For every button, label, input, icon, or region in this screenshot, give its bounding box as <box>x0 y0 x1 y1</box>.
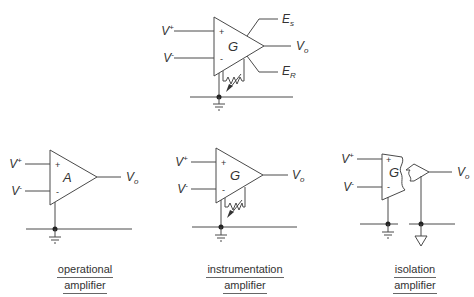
operational-amplifier: V+ V- + - A Vo <box>9 150 139 243</box>
svg-text:+: + <box>55 160 60 170</box>
caption-line-2: amplifier <box>63 278 107 294</box>
svg-text:V+: V+ <box>341 151 354 166</box>
svg-text:Vo: Vo <box>296 39 309 55</box>
gain-label: G <box>230 168 240 183</box>
svg-text:V+: V+ <box>9 156 22 171</box>
isolation-amplifier: V+ V- + - G Vo <box>341 151 470 246</box>
gain-label: A <box>62 170 72 185</box>
svg-text:ER: ER <box>282 64 296 80</box>
svg-text:V+: V+ <box>175 154 188 169</box>
svg-text:V-: V- <box>163 50 174 65</box>
svg-text:+: + <box>221 158 226 168</box>
svg-text:V-: V- <box>177 181 188 196</box>
isolated-ground-icon <box>415 236 427 246</box>
caption-line-1: instrumentation <box>206 262 283 278</box>
caption-instrumentation: instrumentation amplifier <box>195 262 295 294</box>
gain-label: G <box>228 39 238 54</box>
caption-line-1: operational <box>57 262 113 278</box>
svg-text:-: - <box>56 187 59 197</box>
svg-text:Vo: Vo <box>457 165 470 181</box>
svg-text:-: - <box>220 54 223 64</box>
svg-text:Es: Es <box>282 12 294 28</box>
caption-line-2: amplifier <box>223 278 267 294</box>
svg-text:V-: V- <box>343 179 354 194</box>
svg-text:+: + <box>386 155 391 165</box>
svg-text:-: - <box>222 185 225 195</box>
gain-label: G <box>389 165 399 180</box>
instrumentation-amplifier: V+ V- + - G Vo <box>175 148 305 241</box>
svg-text:Vo: Vo <box>292 168 305 184</box>
amplifier-diagram: V+ V- + - G Es Vo ER V+ V- + - A Vo <box>0 0 474 297</box>
amplifier-triangle <box>214 17 264 76</box>
isolation-output-stage <box>406 164 429 181</box>
top-instrumentation-amplifier: V+ V- + - G Es Vo ER <box>161 12 309 110</box>
svg-text:V+: V+ <box>161 23 174 38</box>
svg-text:V-: V- <box>11 183 22 198</box>
caption-isolation: isolation amplifier <box>375 262 455 294</box>
svg-text:Vo: Vo <box>126 170 139 186</box>
svg-text:+: + <box>219 27 224 37</box>
caption-line-2: amplifier <box>393 278 437 294</box>
svg-text:-: - <box>387 182 390 192</box>
caption-line-1: isolation <box>394 262 436 278</box>
caption-operational: operational amplifier <box>40 262 130 294</box>
